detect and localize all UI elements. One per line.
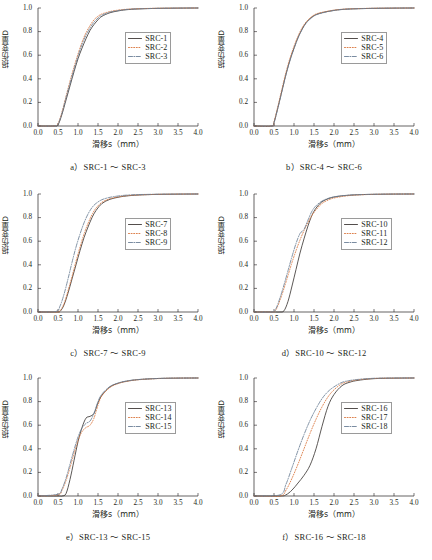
legend-label: SRC-10: [361, 220, 387, 229]
x-tick-label: 3.0: [364, 499, 384, 507]
x-tick-label: 1.0: [68, 499, 88, 507]
legend-item: SRC-2: [128, 43, 167, 52]
y-axis-label: 损伤变量D: [218, 400, 232, 438]
legend-label: SRC-13: [145, 404, 171, 413]
x-tick-label: 1.5: [88, 315, 108, 323]
y-tick-label: 0.6: [228, 237, 248, 245]
legend-item: SRC-18: [344, 422, 387, 431]
y-axis-label: 损伤变量D: [2, 30, 16, 68]
x-tick-label: 0.0: [28, 315, 48, 323]
panel-caption: f）SRC-16 ～ SRC-18: [216, 530, 432, 542]
legend-swatch-solid-icon: [128, 221, 142, 228]
x-tick-label: 2.0: [108, 499, 128, 507]
y-tick-label: 0.4: [12, 261, 32, 269]
y-tick-label: 0.4: [228, 445, 248, 453]
legend-item: SRC-17: [344, 413, 387, 422]
legend: SRC-16SRC-17SRC-18: [341, 402, 391, 434]
x-tick-label: 2.5: [344, 499, 364, 507]
x-tick-label: 2.5: [128, 499, 148, 507]
plot-area: [254, 8, 414, 126]
x-tick-label: 0.5: [48, 129, 68, 137]
x-tick-label: 2.5: [128, 315, 148, 323]
x-tick-label: 1.0: [284, 315, 304, 323]
x-tick-label: 3.5: [168, 129, 188, 137]
x-tick-label: 1.5: [304, 315, 324, 323]
series-line: [254, 378, 414, 496]
legend-label: SRC-2: [145, 43, 167, 52]
legend-swatch-dashdot-icon: [344, 239, 358, 246]
x-tick-label: 2.0: [108, 129, 128, 137]
x-axis-label: 滑移s（mm）: [254, 138, 414, 149]
x-tick-label: 4.0: [404, 315, 424, 323]
y-tick-label: 0.8: [228, 27, 248, 35]
panel-b: 损伤变量D0.00.20.40.60.81.00.00.51.01.52.02.…: [216, 0, 432, 186]
x-tick-label: 3.0: [364, 315, 384, 323]
x-axis-label: 滑移s（mm）: [254, 508, 414, 519]
y-tick-label: 0.2: [228, 98, 248, 106]
y-tick-label: 1.0: [12, 4, 32, 12]
x-tick-label: 0.0: [28, 499, 48, 507]
x-tick-label: 3.5: [168, 499, 188, 507]
legend-item: SRC-3: [128, 52, 167, 61]
y-tick-label: 1.0: [228, 4, 248, 12]
legend-swatch-dashdot-icon: [344, 423, 358, 430]
y-tick-label: 0.8: [12, 27, 32, 35]
legend-swatch-solid-icon: [128, 35, 142, 42]
x-tick-label: 3.5: [168, 315, 188, 323]
x-tick-label: 2.5: [344, 129, 364, 137]
y-tick-label: 0.6: [12, 51, 32, 59]
x-axis-label: 滑移s（mm）: [38, 324, 198, 335]
legend-item: SRC-7: [128, 220, 167, 229]
legend-swatch-dashdot-icon: [128, 53, 142, 60]
series-line: [254, 378, 414, 496]
legend-item: SRC-16: [344, 404, 387, 413]
series-line: [38, 8, 198, 126]
y-tick-label: 0.6: [228, 421, 248, 429]
x-tick-label: 4.0: [188, 315, 208, 323]
legend-label: SRC-8: [145, 229, 167, 238]
y-tick-label: 0.8: [228, 397, 248, 405]
series-line: [254, 194, 414, 312]
legend: SRC-4SRC-5SRC-6: [341, 32, 387, 64]
legend-item: SRC-1: [128, 34, 167, 43]
y-tick-label: 0.6: [228, 51, 248, 59]
panel-c: 损伤变量D0.00.20.40.60.81.00.00.51.01.52.02.…: [0, 186, 216, 370]
y-tick-label: 0.4: [12, 75, 32, 83]
legend-swatch-solid-icon: [344, 35, 358, 42]
panel-caption: e）SRC-13 ～ SRC-15: [0, 530, 216, 542]
x-axis-label: 滑移s（mm）: [38, 138, 198, 149]
series-line: [254, 8, 414, 126]
series-line: [38, 378, 198, 496]
x-tick-label: 3.5: [384, 315, 404, 323]
legend-swatch-dashdot-icon: [128, 239, 142, 246]
x-tick-label: 1.5: [88, 499, 108, 507]
x-tick-label: 3.5: [384, 499, 404, 507]
x-tick-label: 3.0: [148, 499, 168, 507]
legend-label: SRC-5: [361, 43, 383, 52]
y-axis-label: 损伤变量D: [218, 30, 232, 68]
x-tick-label: 0.0: [28, 129, 48, 137]
legend-label: SRC-15: [145, 422, 171, 431]
legend-label: SRC-7: [145, 220, 167, 229]
y-axis-label: 损伤变量D: [2, 400, 16, 438]
series-line: [254, 194, 414, 312]
y-tick-label: 1.0: [228, 190, 248, 198]
legend-item: SRC-15: [128, 422, 171, 431]
panel-e: 损伤变量D0.00.20.40.60.81.00.00.51.01.52.02.…: [0, 370, 216, 560]
legend-swatch-solid-icon: [344, 405, 358, 412]
series-line: [38, 8, 198, 126]
x-tick-label: 2.5: [128, 129, 148, 137]
legend-label: SRC-4: [361, 34, 383, 43]
panel-d: 损伤变量D0.00.20.40.60.81.00.00.51.01.52.02.…: [216, 186, 432, 370]
plot-area: [254, 194, 414, 312]
series-line: [38, 194, 198, 312]
x-axis-label: 滑移s（mm）: [254, 324, 414, 335]
panel-a: 损伤变量D0.00.20.40.60.81.00.00.51.01.52.02.…: [0, 0, 216, 186]
x-tick-label: 4.0: [188, 499, 208, 507]
legend-swatch-dashdot-icon: [128, 423, 142, 430]
legend-swatch-dotted-icon: [128, 44, 142, 51]
legend-label: SRC-3: [145, 52, 167, 61]
x-tick-label: 1.5: [304, 499, 324, 507]
x-tick-label: 0.0: [244, 499, 264, 507]
x-tick-label: 3.5: [384, 129, 404, 137]
